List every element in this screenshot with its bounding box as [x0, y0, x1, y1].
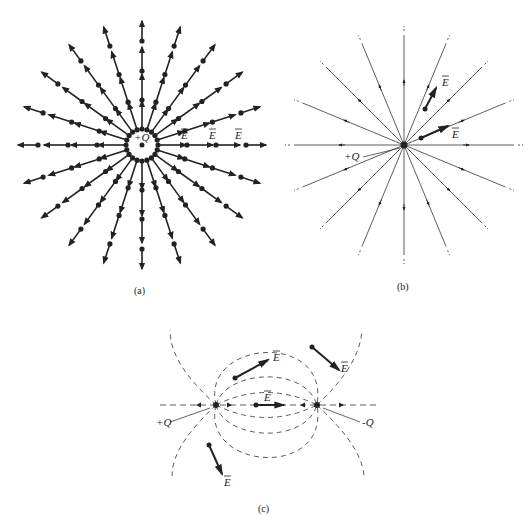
- field-label-e: E: [451, 128, 459, 140]
- panel-c-dipole-flux-lines: [160, 330, 376, 476]
- field-label-e: E: [208, 129, 216, 141]
- panel-a-charge-label: +Q: [134, 131, 149, 143]
- panel-b-charge-pointer: [363, 148, 400, 157]
- field-label-e: E: [441, 76, 449, 88]
- panel-b-caption: (b): [397, 281, 409, 293]
- field-label-e: E: [340, 362, 348, 374]
- field-label-e: E: [263, 391, 271, 403]
- field-label-e: E: [234, 129, 242, 141]
- panel-c-positive-charge-label: +Q: [156, 416, 171, 428]
- panel-c-field-labels: E E E E: [223, 351, 348, 488]
- panel-a-caption: (a): [134, 285, 145, 297]
- panel-b-flux-lines: [285, 26, 523, 264]
- panel-a-point-charge-vectors: [18, 21, 266, 269]
- panel-c-caption: (c): [258, 503, 269, 515]
- field-label-e: E: [180, 129, 188, 141]
- field-label-e: E: [223, 476, 231, 488]
- panel-b-sample-vectors: [419, 88, 449, 141]
- panel-b-field-labels: E E: [441, 76, 459, 140]
- electric-field-figure: +Q E E E (a) +Q E E (b): [0, 0, 528, 522]
- panel-a-field-labels: E E E: [180, 129, 242, 141]
- field-label-e: E: [272, 351, 280, 363]
- panel-c-negative-charge-label: -Q: [362, 416, 374, 428]
- panel-b-charge-label: +Q: [344, 150, 359, 162]
